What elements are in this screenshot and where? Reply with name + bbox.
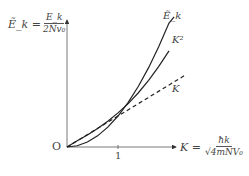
legend-label-k2: K²: [172, 34, 183, 45]
origin-label: O: [52, 140, 61, 153]
x-tick-label-1: 1: [115, 150, 121, 161]
y-axis-label-lhs: Ẽ_k =: [8, 18, 41, 31]
legend-label-k: K: [172, 83, 179, 94]
y-label-numerator: E_k: [44, 12, 65, 24]
y-label-denominator: 2Nv₀: [43, 24, 65, 35]
legend-label-ek: Ẽ_k: [163, 10, 181, 21]
x-axis-label-lhs: K =: [180, 141, 201, 154]
x-axis-label-fraction: ħk √4mNV₀: [205, 135, 243, 158]
series-line-0: [67, 51, 169, 147]
x-label-denominator: √4mNV₀: [205, 147, 243, 158]
y-axis-label-fraction: E_k 2Nv₀: [43, 12, 65, 35]
series-line-1: [67, 17, 174, 147]
x-label-numerator: ħk: [216, 135, 231, 147]
